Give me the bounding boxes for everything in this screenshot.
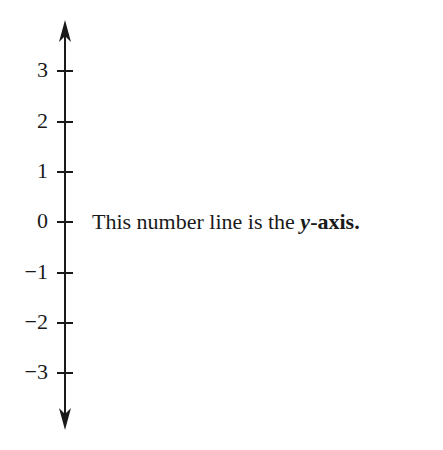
tick-label: −3 xyxy=(8,361,48,383)
caption-text: This number line is the xyxy=(92,209,300,234)
caption-axis: -axis. xyxy=(310,209,360,234)
caption-variable: y xyxy=(300,209,310,234)
tick-label: −2 xyxy=(8,311,48,333)
tick-label: 3 xyxy=(8,59,48,81)
caption: This number line is the y-axis. xyxy=(92,211,360,233)
tick-label: −1 xyxy=(8,261,48,283)
tick-label: 0 xyxy=(8,210,48,232)
tick-label: 2 xyxy=(8,110,48,132)
tick-label: 1 xyxy=(8,160,48,182)
